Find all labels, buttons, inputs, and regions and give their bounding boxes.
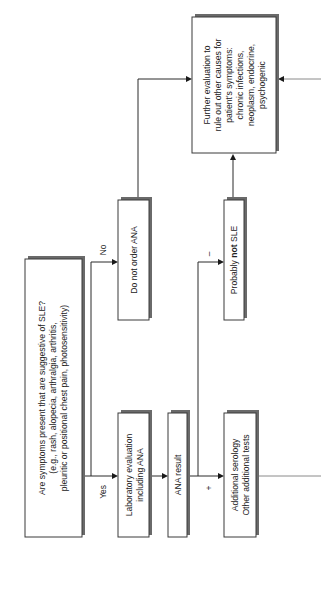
no-label: No bbox=[98, 244, 108, 255]
arrow-icon bbox=[112, 259, 118, 265]
connector-no bbox=[91, 262, 114, 476]
arrow-icon bbox=[162, 473, 168, 479]
question-line-1: Are symptoms present that are suggestive… bbox=[37, 301, 47, 495]
connector-do-not-order-further bbox=[138, 79, 188, 200]
negative-label: – bbox=[204, 251, 214, 256]
additional-line-2: Other additional tests bbox=[241, 434, 251, 515]
arrow-icon bbox=[230, 154, 236, 160]
arrow-icon bbox=[186, 76, 192, 82]
ana-result-box: ANA result bbox=[168, 410, 190, 537]
probably-not-text: Probably not SLE bbox=[229, 226, 239, 295]
further-line-5: neoplasm, endocrine, bbox=[246, 44, 256, 126]
lab-line-1: Laboratory evaluation bbox=[124, 433, 134, 516]
do-not-order-ana-box: Do not order ANA bbox=[118, 197, 152, 320]
further-line-6: psychogenic bbox=[257, 60, 267, 108]
sle-flowchart: Are symptoms present that are suggestive… bbox=[0, 0, 321, 602]
arrow-icon bbox=[112, 473, 118, 479]
question-box: Are symptoms present that are suggestive… bbox=[25, 256, 85, 537]
additional-serology-box: Additional serology Other additional tes… bbox=[224, 410, 259, 537]
arrow-icon bbox=[218, 259, 224, 265]
yes-label: Yes bbox=[98, 485, 108, 499]
do-not-order-text: Do not order ANA bbox=[129, 226, 139, 294]
ana-result-text: ANA result bbox=[173, 454, 183, 495]
arrow-icon bbox=[218, 473, 224, 479]
question-line-2: (e.g., rash, alopecia, arthralgia, arthr… bbox=[48, 322, 58, 473]
positive-label: + bbox=[204, 485, 214, 490]
further-line-2: rule out other causes for bbox=[213, 39, 223, 132]
probably-not-sle-box: Probably not SLE bbox=[224, 197, 247, 320]
lab-evaluation-box: Laboratory evaluation including ANA bbox=[118, 410, 152, 537]
further-line-3: patient's symptoms: bbox=[224, 47, 234, 123]
further-line-4: chronic infections, bbox=[235, 51, 245, 120]
lab-line-2: including ANA bbox=[135, 448, 145, 502]
further-evaluation-box: Further evaluation to rule out other cau… bbox=[192, 14, 279, 153]
connector-negative bbox=[198, 262, 220, 476]
additional-line-1: Additional serology bbox=[230, 438, 240, 511]
question-line-3: pleuritic or positional chest pain, phot… bbox=[59, 305, 69, 491]
further-line-1: Further evaluation to bbox=[202, 45, 212, 124]
